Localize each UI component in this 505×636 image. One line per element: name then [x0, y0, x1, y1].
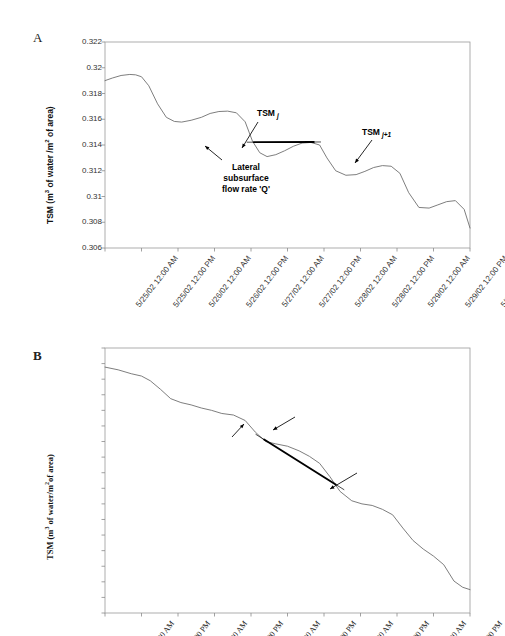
y-tick-a-0: 0.322 [58, 37, 102, 46]
plot-area-b [0, 330, 505, 636]
annotation-tsm-j1-a: TSMj+1 [362, 127, 391, 138]
annotation-lateral-flow-a-l2: subsurface [196, 173, 296, 184]
annotation-lateral-flow-a-l3: flow rate 'Q' [196, 184, 296, 195]
annotation-tsm-j-a: TSMj [257, 108, 279, 119]
chart-panel-a: A TSM (m3 of water /m2 of area) 0.3220.3… [0, 0, 505, 330]
y-tick-a-8: 0.306 [58, 243, 102, 252]
y-tick-a-1: 0.32 [58, 63, 102, 72]
annotation-lateral-flow-a: Lateral subsurface flow rate 'Q' [196, 162, 296, 196]
y-tick-a-5: 0.312 [58, 166, 102, 175]
y-tick-a-6: 0.31 [58, 192, 102, 201]
y-tick-a-4: 0.314 [58, 140, 102, 149]
y-tick-a-7: 0.308 [58, 217, 102, 226]
y-tick-a-2: 0.318 [58, 89, 102, 98]
annotation-lateral-flow-a-l1: Lateral [196, 162, 296, 173]
chart-panel-b: B TSM (m3 of water/m2of area) 0.4380.436… [0, 330, 505, 636]
y-tick-a-3: 0.316 [58, 114, 102, 123]
